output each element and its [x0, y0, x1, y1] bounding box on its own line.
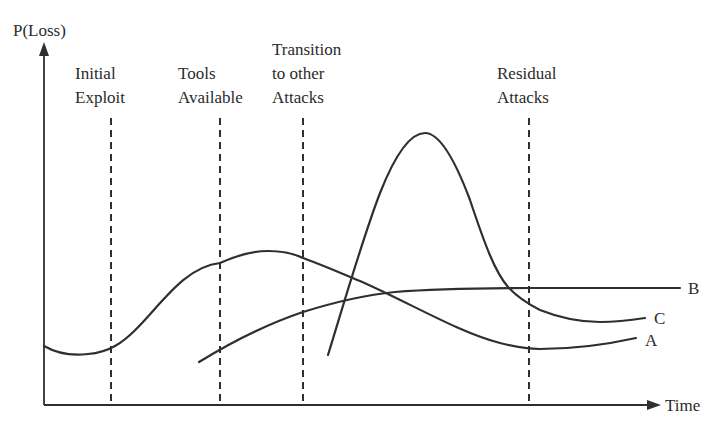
curve-label-a: A	[645, 331, 658, 350]
phase-markers	[111, 118, 529, 405]
x-axis-arrow-icon	[647, 400, 661, 410]
phase-label-residual-attacks: Residual	[497, 64, 557, 83]
curve-label-c: C	[654, 309, 665, 328]
curve-a	[44, 251, 636, 355]
y-axis-arrow-icon	[39, 42, 49, 56]
y-axis-label: P(Loss)	[13, 21, 66, 40]
curves	[44, 133, 680, 362]
phase-label-residual-attacks-2: Attacks	[497, 88, 549, 107]
phase-label-transition-2: to other	[272, 64, 325, 83]
phase-label-initial-exploit-2: Exploit	[75, 88, 125, 107]
curve-labels: B C A	[645, 279, 699, 350]
loss-over-time-diagram: P(Loss) Time Initial Exploit Tools Avail…	[0, 0, 725, 426]
curve-label-b: B	[688, 279, 699, 298]
phase-label-tools-available: Tools	[178, 64, 216, 83]
curve-c	[328, 133, 645, 355]
phase-label-tools-available-2: Available	[178, 88, 243, 107]
x-axis-label: Time	[665, 396, 700, 415]
phase-label-transition-3: Attacks	[272, 88, 324, 107]
phase-labels: Initial Exploit Tools Available Transiti…	[75, 40, 557, 107]
curve-b	[199, 288, 680, 362]
phase-label-initial-exploit: Initial	[75, 64, 116, 83]
phase-label-transition: Transition	[272, 40, 342, 59]
axes: P(Loss) Time	[13, 21, 700, 415]
